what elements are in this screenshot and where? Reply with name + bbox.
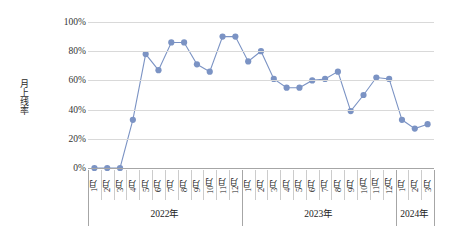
data-point[interactable] — [296, 85, 302, 91]
axis-tick-separator — [114, 170, 115, 200]
x-tick-label: 5月 — [140, 170, 152, 200]
data-point[interactable] — [412, 125, 418, 131]
x-tick-label: 4月 — [127, 170, 139, 200]
data-point[interactable] — [399, 117, 405, 123]
data-point[interactable] — [245, 58, 251, 64]
x-tick-label: 3月 — [268, 170, 280, 200]
axis-tick-separator — [191, 170, 192, 200]
data-point[interactable] — [424, 121, 430, 127]
axis-tick-separator — [203, 170, 204, 200]
x-tick-label: 12月 — [229, 170, 241, 200]
x-tick-label: 9月 — [191, 170, 203, 200]
axis-tick-separator — [331, 170, 332, 200]
axis-separator — [88, 170, 89, 226]
x-tick-label: 6月 — [306, 170, 318, 200]
data-point[interactable] — [130, 117, 136, 123]
x-tick-label: 11月 — [370, 170, 382, 200]
gridline — [88, 22, 434, 23]
axis-tick-separator — [293, 170, 294, 200]
line-series — [88, 22, 434, 168]
x-tick-label: 7月 — [319, 170, 331, 200]
axis-separator — [242, 170, 243, 226]
x-tick-label: 2月 — [409, 170, 421, 200]
axis-tick-separator — [139, 170, 140, 200]
axis-separator — [396, 170, 397, 226]
x-tick-label: 1月 — [88, 170, 100, 200]
axis-tick-separator — [421, 170, 422, 200]
data-point[interactable] — [207, 69, 213, 75]
axis-tick-separator — [178, 170, 179, 200]
axis-tick-separator — [319, 170, 320, 200]
y-tick-label: 0% — [42, 163, 86, 173]
x-tick-label: 6月 — [152, 170, 164, 200]
x-axis-line — [88, 168, 434, 169]
x-tick-label: 4月 — [281, 170, 293, 200]
data-point[interactable] — [155, 67, 161, 73]
x-tick-label: 5月 — [293, 170, 305, 200]
axis-tick-separator — [370, 170, 371, 200]
data-point[interactable] — [232, 34, 238, 40]
gridline — [88, 51, 434, 52]
axis-tick-separator — [229, 170, 230, 200]
axis-tick-separator — [357, 170, 358, 200]
x-tick-label: 3月 — [422, 170, 434, 200]
gridline — [88, 110, 434, 111]
x-tick-label: 10月 — [358, 170, 370, 200]
x-tick-label: 12月 — [383, 170, 395, 200]
data-point[interactable] — [168, 39, 174, 45]
x-group-label: 2022年 — [88, 200, 242, 226]
y-tick-label: 80% — [42, 46, 86, 56]
axis-separator — [434, 170, 435, 226]
data-point[interactable] — [284, 85, 290, 91]
axis-tick-separator — [126, 170, 127, 200]
data-point[interactable] — [360, 92, 366, 98]
axis-tick-separator — [280, 170, 281, 200]
x-group-label: 2023年 — [242, 200, 396, 226]
x-tick-label: 1月 — [242, 170, 254, 200]
x-tick-label: 2月 — [255, 170, 267, 200]
data-point[interactable] — [181, 39, 187, 45]
x-tick-label: 2月 — [101, 170, 113, 200]
x-tick-label: 1月 — [396, 170, 408, 200]
x-tick-label: 7月 — [165, 170, 177, 200]
x-axis-year-labels: 2022年2023年2024年 — [88, 200, 434, 226]
data-point[interactable] — [335, 69, 341, 75]
axis-tick-separator — [344, 170, 345, 200]
data-point[interactable] — [194, 61, 200, 67]
y-tick-label: 40% — [42, 105, 86, 115]
axis-tick-separator — [408, 170, 409, 200]
x-tick-label: 8月 — [332, 170, 344, 200]
y-tick-label: 60% — [42, 75, 86, 85]
axis-tick-separator — [383, 170, 384, 200]
axis-tick-separator — [255, 170, 256, 200]
axis-tick-separator — [267, 170, 268, 200]
x-tick-label: 11月 — [217, 170, 229, 200]
x-group-label: 2024年 — [396, 200, 434, 226]
gridline — [88, 80, 434, 81]
x-tick-label: 10月 — [204, 170, 216, 200]
plot-area — [88, 22, 434, 168]
y-tick-label: 20% — [42, 134, 86, 144]
axis-tick-separator — [306, 170, 307, 200]
chart-container: 月上线率 100%80%60%40%20%0% 1月2月3月4月5月6月7月8月… — [0, 0, 462, 231]
axis-tick-separator — [152, 170, 153, 200]
y-tick-label: 100% — [42, 17, 86, 27]
data-point[interactable] — [219, 34, 225, 40]
axis-tick-separator — [101, 170, 102, 200]
axis-tick-separator — [216, 170, 217, 200]
gridline — [88, 139, 434, 140]
x-tick-label: 8月 — [178, 170, 190, 200]
x-tick-label: 3月 — [114, 170, 126, 200]
y-axis-tick-labels: 100%80%60%40%20%0% — [0, 0, 86, 231]
x-tick-label: 9月 — [345, 170, 357, 200]
axis-tick-separator — [165, 170, 166, 200]
